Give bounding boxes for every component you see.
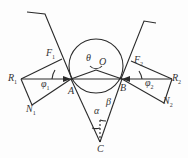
label-R1: R1	[8, 73, 17, 85]
label-B: B	[120, 83, 126, 93]
label-O: O	[99, 57, 106, 67]
label-N2: N2	[163, 96, 173, 108]
label-C: C	[97, 144, 104, 154]
label-phi2: φ2	[145, 78, 154, 90]
label-phi1: φ1	[41, 79, 50, 91]
N1-side	[21, 79, 32, 105]
circle-body	[69, 39, 123, 93]
label-theta: θ	[86, 53, 91, 63]
label-F2: F2	[134, 55, 143, 67]
label-F1: F1	[46, 48, 55, 60]
F1-side	[21, 59, 62, 79]
label-A: A	[68, 86, 74, 96]
label-alpha: α	[94, 106, 99, 116]
label-R2: R2	[172, 73, 181, 85]
right-jaw-arm	[121, 21, 156, 79]
left-jaw-arm	[27, 12, 72, 79]
label-beta: β	[106, 97, 111, 107]
force-diagram: F1 F2 R1 R2 N1 N2 φ1 φ2 θ O A B C α β	[0, 0, 188, 158]
diagram-lines	[0, 0, 188, 158]
label-N1: N1	[26, 104, 36, 116]
